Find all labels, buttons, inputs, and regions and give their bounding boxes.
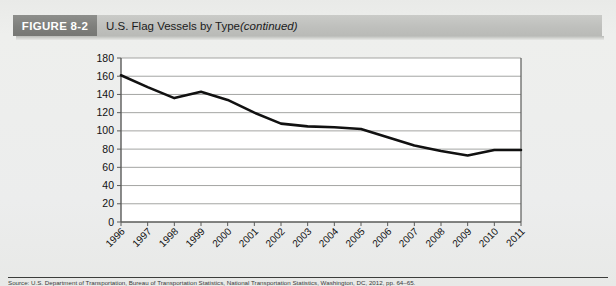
y-tick-label: 20	[102, 197, 114, 209]
figure-page: FIGURE 8-2 U.S. Flag Vessels by Type (co…	[0, 0, 616, 286]
x-tick-label: 1996	[103, 225, 127, 249]
x-tick-label: 2011	[504, 225, 527, 248]
x-tick-label: 1997	[130, 225, 154, 249]
y-tick-label: 40	[102, 179, 114, 191]
x-tick-label: 2003	[290, 225, 314, 249]
x-tick-label: 1998	[157, 225, 181, 249]
x-tick-label: 2001	[237, 225, 261, 249]
plot-area	[121, 58, 521, 222]
source-divider	[8, 277, 608, 278]
x-tick-label: 2008	[423, 225, 447, 249]
x-tick-label: 2009	[450, 225, 474, 249]
figure-title: U.S. Flag Vessels by Type (continued)	[97, 15, 602, 36]
x-tick-label: 1999	[183, 225, 207, 249]
x-tick-label: 2010	[477, 225, 501, 249]
y-tick-label: 60	[102, 161, 114, 173]
line-chart: 0204060801001201401601801996199719981999…	[0, 44, 616, 266]
y-tick-label: 140	[96, 88, 114, 100]
y-tick-label: 180	[96, 52, 114, 64]
y-tick-label: 160	[96, 70, 114, 82]
x-tick-label: 2005	[343, 225, 367, 249]
y-tick-label: 80	[102, 143, 114, 155]
figure-title-main: U.S. Flag Vessels by Type	[106, 20, 240, 32]
figure-title-continued: (continued)	[240, 20, 298, 32]
x-tick-label: 2006	[370, 225, 394, 249]
chart-canvas: 0204060801001201401601801996199719981999…	[0, 44, 616, 266]
source-caption: Source: U.S. Department of Transportatio…	[8, 279, 608, 286]
y-tick-label: 0	[108, 216, 114, 228]
y-tick-label: 100	[96, 124, 114, 136]
figure-banner: FIGURE 8-2 U.S. Flag Vessels by Type (co…	[13, 15, 602, 36]
x-tick-label: 2000	[210, 225, 234, 249]
figure-number-label: FIGURE 8-2	[13, 15, 97, 36]
banner-shadow	[16, 36, 604, 40]
x-tick-label: 2004	[317, 225, 341, 249]
x-tick-label: 2002	[263, 225, 287, 249]
y-tick-label: 120	[96, 106, 114, 118]
x-tick-label: 2007	[397, 225, 421, 249]
